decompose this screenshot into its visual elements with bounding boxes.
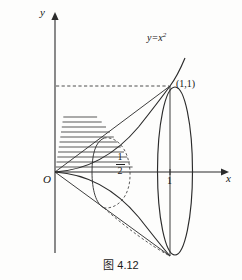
cross-section-ellipse-at-one: [158, 87, 193, 255]
curve-equation-label: y=x2: [147, 32, 166, 43]
y-axis-arrowhead: [51, 12, 58, 20]
fraction-numerator: 1: [113, 152, 127, 163]
point-label: (1,1): [176, 79, 195, 89]
y-axis-label: y: [40, 7, 45, 18]
x-axis-label: x: [226, 173, 231, 184]
curve-equation-base: y=x: [147, 32, 163, 43]
origin-label: O: [43, 174, 51, 185]
math-figure-svg: [0, 0, 242, 280]
chord-origin-to-point-mirror: [55, 172, 170, 256]
curve-equation-exponent: 2: [163, 31, 167, 39]
cross-section-ellipse-at-half-front: [92, 138, 104, 208]
axes-group: [51, 12, 229, 253]
figure-container: y x O y=x2 (1,1) 1 1 2 图 4.12: [0, 0, 242, 280]
figure-caption: 图 4.12: [0, 256, 242, 272]
fraction-denominator: 2: [113, 166, 127, 177]
x-tick-one-label: 1: [167, 176, 172, 186]
fraction-one-half-label: 1 2: [113, 152, 127, 176]
